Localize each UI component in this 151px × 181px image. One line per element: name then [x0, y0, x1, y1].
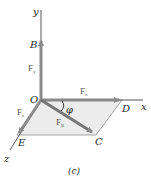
vector-fy-label: Fy [28, 63, 36, 74]
point-d-label: D [121, 103, 130, 114]
point-c-label: C [95, 136, 103, 147]
angle-phi-label: φ [66, 104, 73, 115]
point-o-label: O [30, 94, 38, 105]
point-e-label: E [17, 137, 26, 148]
figure-caption: (c) [68, 166, 81, 176]
x-axis-label: x [141, 101, 147, 112]
vector-diagram: y x z B O D C E Fy Fx Fz FR φ (c) [0, 0, 151, 181]
y-axis-label: y [32, 6, 39, 17]
point-b-label: B [29, 39, 37, 50]
vector-fz-label: Fz [17, 107, 25, 118]
vector-fx-label: Fx [80, 86, 88, 97]
z-axis-label: z [3, 153, 10, 164]
